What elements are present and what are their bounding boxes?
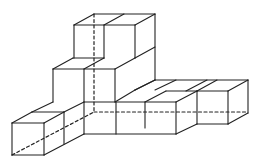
cube-stack-drawing bbox=[0, 0, 260, 162]
visible-edge bbox=[104, 14, 124, 25]
visible-edge bbox=[228, 113, 248, 124]
visible-edge bbox=[155, 80, 176, 90]
visible-edge bbox=[74, 14, 94, 25]
visible-edge bbox=[64, 102, 84, 112]
visible-edge bbox=[115, 58, 135, 69]
visible-edge bbox=[145, 91, 166, 102]
visible-edge bbox=[135, 47, 155, 58]
visible-edge bbox=[12, 112, 32, 123]
visible-edge bbox=[32, 102, 53, 112]
visible-edge bbox=[115, 90, 135, 102]
visible-edge bbox=[53, 58, 73, 69]
visible-edge bbox=[186, 80, 207, 91]
visible-edge bbox=[176, 124, 197, 134]
visible-edge bbox=[135, 80, 155, 90]
visible-edge bbox=[228, 80, 248, 91]
visible-edge bbox=[135, 14, 155, 25]
visible-edge bbox=[44, 112, 64, 123]
visible-edge bbox=[176, 91, 197, 102]
visible-edge bbox=[197, 80, 217, 91]
cube-stack-diagram bbox=[0, 0, 260, 162]
